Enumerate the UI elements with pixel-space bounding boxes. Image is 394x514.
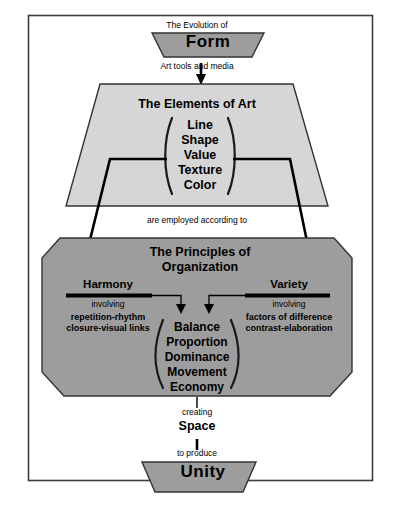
- principles-heading-line1: The Principles of: [150, 246, 251, 259]
- element-item-shape: Shape: [181, 134, 219, 147]
- principles-heading-line2: Organization: [162, 261, 238, 274]
- form-label: Form: [186, 33, 231, 50]
- connector-employed-according-to: are employed according to: [147, 216, 247, 225]
- variety-involving-label: involving: [272, 300, 305, 309]
- element-item-texture: Texture: [178, 164, 222, 177]
- variety-detail-2: contrast-elaboration: [245, 324, 332, 333]
- principle-item-balance: Balance: [174, 321, 220, 333]
- principle-item-movement: Movement: [167, 366, 226, 378]
- diagram-canvas: The Evolution of Form Art tools and medi…: [0, 0, 394, 514]
- element-item-value: Value: [184, 149, 217, 162]
- element-item-line: Line: [187, 119, 213, 132]
- element-item-color: Color: [184, 179, 217, 192]
- unity-label: Unity: [181, 463, 226, 480]
- branch-label-variety: Variety: [270, 279, 308, 291]
- principle-item-dominance: Dominance: [165, 351, 230, 363]
- title-evolution-of: The Evolution of: [166, 21, 227, 30]
- connector-art-tools-and-media: Art tools and media: [160, 62, 233, 71]
- harmony-involving-label: involving: [91, 300, 124, 309]
- connector-to-produce: to produce: [177, 449, 217, 458]
- connector-creating: creating: [182, 408, 212, 417]
- principle-item-proportion: Proportion: [166, 336, 227, 348]
- elements-heading: The Elements of Art: [138, 98, 256, 111]
- principle-item-economy: Economy: [170, 381, 224, 393]
- space-label: Space: [179, 420, 216, 433]
- harmony-detail-2: closure-visual links: [66, 324, 150, 333]
- harmony-detail-1: repetition-rhythm: [71, 313, 146, 322]
- branch-label-harmony: Harmony: [83, 279, 133, 291]
- variety-detail-1: factors of difference: [246, 313, 333, 322]
